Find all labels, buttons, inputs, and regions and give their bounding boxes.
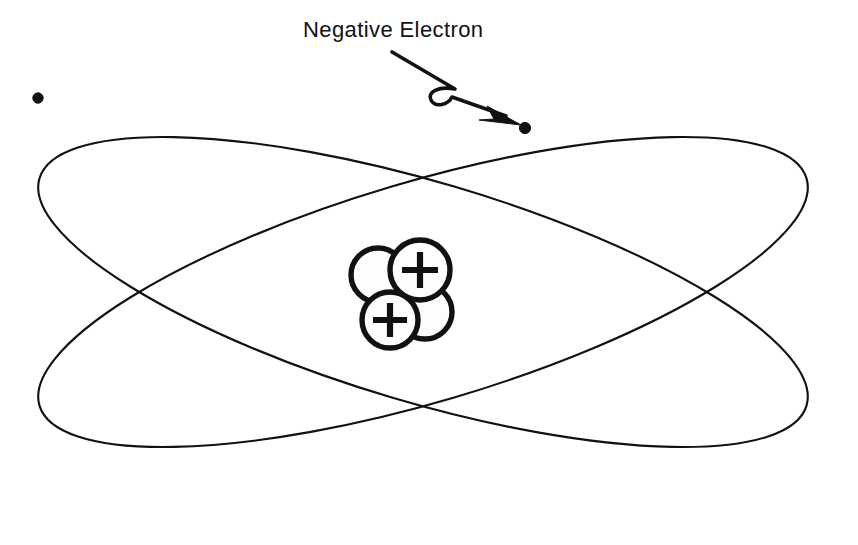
atom-figure [0, 0, 858, 545]
proton-lower-left [362, 292, 418, 348]
electron-right [519, 122, 530, 133]
atom-diagram-canvas: Negative Electron [0, 0, 858, 545]
nucleus-group [351, 240, 452, 348]
electron-left [33, 93, 43, 103]
pointer-line-icon [392, 52, 506, 116]
electron-callout-label: Negative Electron [303, 18, 483, 42]
electron-callout-pointer [392, 52, 521, 125]
